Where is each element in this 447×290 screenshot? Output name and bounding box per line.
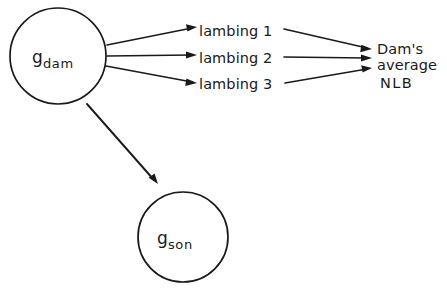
g-son-label-base: g bbox=[157, 228, 168, 248]
g-dam-label-subscript: dam bbox=[43, 56, 74, 71]
edge-line-g-dam-g-son bbox=[87, 104, 154, 180]
edge-label-lambing-1: lambing 1 bbox=[199, 23, 272, 39]
diagram-canvas-container: g dam g son bbox=[0, 0, 447, 290]
node-g-dam: g dam bbox=[10, 8, 106, 104]
arrow-head-lambing-1 bbox=[186, 24, 197, 31]
arrow-head-outcome-1 bbox=[360, 45, 372, 52]
outcome-line-3: NLB bbox=[380, 75, 413, 91]
edge-lambing-3-to-outcome bbox=[285, 65, 372, 83]
edge-line-lambing-1-outcome bbox=[284, 29, 367, 48]
node-g-son: g son bbox=[138, 192, 228, 282]
outcome-dams-average-nlb: Dam's average NLB bbox=[377, 41, 437, 91]
arrow-head-outcome-3 bbox=[361, 65, 372, 72]
edge-g-dam-to-g-son bbox=[87, 104, 158, 184]
outcome-line-1: Dam's bbox=[377, 41, 423, 57]
edge-lambing-2-to-outcome bbox=[284, 55, 372, 62]
edge-g-dam-to-lambing-3 bbox=[106, 66, 197, 86]
outcome-line-2: average bbox=[377, 57, 437, 73]
edge-label-lambing-2: lambing 2 bbox=[199, 50, 272, 66]
edge-line-g-dam-lambing-1 bbox=[107, 28, 192, 45]
edge-line-lambing-2-outcome bbox=[284, 57, 367, 58]
arrow-head-lambing-2 bbox=[186, 52, 197, 59]
arrow-head-outcome-2 bbox=[361, 55, 372, 62]
edge-g-dam-to-lambing-1 bbox=[107, 24, 197, 45]
edge-g-dam-to-lambing-2 bbox=[107, 52, 197, 59]
edge-lambing-1-to-outcome bbox=[284, 29, 372, 52]
arrow-head-lambing-3 bbox=[185, 79, 197, 86]
edge-label-lambing-3: lambing 3 bbox=[199, 76, 272, 92]
g-son-label-subscript: son bbox=[168, 237, 193, 252]
edge-line-g-dam-lambing-3 bbox=[106, 66, 192, 82]
edge-line-g-dam-lambing-2 bbox=[107, 55, 192, 56]
g-dam-label-base: g bbox=[32, 47, 43, 67]
edge-line-lambing-3-outcome bbox=[285, 69, 367, 83]
path-diagram: g dam g son bbox=[0, 0, 447, 290]
